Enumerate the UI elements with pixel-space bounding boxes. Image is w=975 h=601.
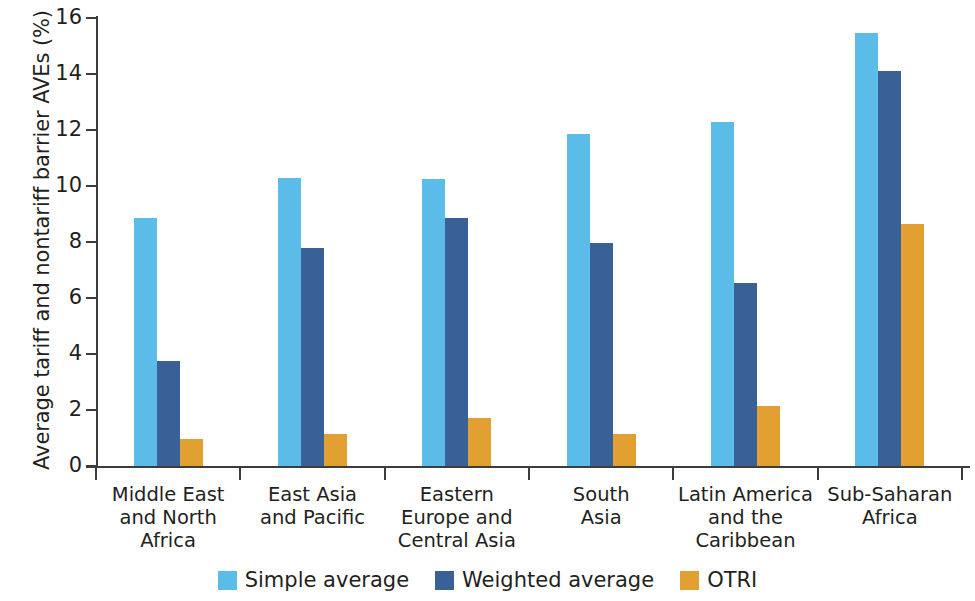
- bar-group: [818, 18, 962, 466]
- bar-weighted: [445, 218, 468, 466]
- y-axis-tick: [86, 17, 96, 19]
- y-axis-tick-label: 2: [38, 399, 82, 420]
- x-axis-category-label: SouthAsia: [519, 484, 683, 530]
- bar-otri: [757, 406, 780, 466]
- legend-swatch-icon: [218, 571, 237, 590]
- x-axis-category-label-line: Eastern: [375, 484, 539, 507]
- bar-weighted: [590, 243, 613, 466]
- x-axis-category-label: East Asiaand Pacific: [230, 484, 394, 530]
- y-axis-tick: [86, 241, 96, 243]
- bar-group: [96, 18, 240, 466]
- x-axis-category-label-line: Middle East: [86, 484, 250, 507]
- legend-label: Weighted average: [462, 568, 654, 592]
- x-axis-category-label: EasternEurope andCentral Asia: [375, 484, 539, 552]
- bar-simple: [567, 134, 590, 466]
- x-axis-category-label-line: and Pacific: [230, 507, 394, 530]
- y-axis-tick-label: 4: [38, 343, 82, 364]
- y-axis-tick-label: 0: [38, 455, 82, 476]
- plot-area: [96, 18, 962, 466]
- y-axis-tick-label: 6: [38, 287, 82, 308]
- x-axis-category-label-line: Sub-Saharan: [808, 484, 972, 507]
- x-axis-tick: [384, 468, 386, 480]
- x-axis-category-label-line: and North: [86, 507, 250, 530]
- y-axis-tick-label: 8: [38, 231, 82, 252]
- bar-group: [673, 18, 817, 466]
- x-axis-category-label: Latin Americaand theCaribbean: [663, 484, 827, 552]
- legend-swatch-icon: [680, 571, 699, 590]
- x-axis-tick: [528, 468, 530, 480]
- y-axis-tick: [86, 129, 96, 131]
- bar-otri: [901, 224, 924, 466]
- y-axis-tick-label: 10: [38, 175, 82, 196]
- x-axis-tick: [817, 468, 819, 480]
- legend-label: Simple average: [245, 568, 409, 592]
- x-axis-tick: [239, 468, 241, 480]
- bar-otri: [324, 434, 347, 466]
- x-axis-tick: [961, 468, 963, 480]
- bar-simple: [278, 178, 301, 466]
- x-axis-category-label-line: Caribbean: [663, 530, 827, 553]
- y-axis-tick: [86, 353, 96, 355]
- bar-otri: [468, 418, 491, 466]
- bar-simple: [855, 33, 878, 466]
- y-axis-tick: [86, 409, 96, 411]
- legend-item-weighted[interactable]: Weighted average: [435, 568, 654, 592]
- bar-simple: [134, 218, 157, 466]
- y-axis-tick-label: 12: [38, 119, 82, 140]
- x-axis-category-label-line: Central Asia: [375, 530, 539, 553]
- y-axis-tick-label: 16: [38, 7, 82, 28]
- y-axis-tick: [86, 73, 96, 75]
- x-axis-category-label-line: and the: [663, 507, 827, 530]
- bar-group: [240, 18, 384, 466]
- x-axis-category-label-line: Europe and: [375, 507, 539, 530]
- x-axis-category-label-line: Africa: [86, 530, 250, 553]
- y-axis-tick: [86, 297, 96, 299]
- bar-weighted: [157, 361, 180, 466]
- bar-simple: [711, 122, 734, 466]
- bar-group: [385, 18, 529, 466]
- bar-otri: [180, 439, 203, 466]
- legend-item-otri[interactable]: OTRI: [680, 568, 757, 592]
- bar-group: [529, 18, 673, 466]
- x-axis-category-label-line: Asia: [519, 507, 683, 530]
- x-axis-category-label: Sub-SaharanAfrica: [808, 484, 972, 530]
- x-axis-category-label-line: Africa: [808, 507, 972, 530]
- y-axis-tick: [86, 185, 96, 187]
- legend-swatch-icon: [435, 571, 454, 590]
- bar-weighted: [878, 71, 901, 466]
- x-axis-category-label-line: Latin America: [663, 484, 827, 507]
- x-axis-tick: [95, 468, 97, 480]
- legend-label: OTRI: [707, 568, 757, 592]
- bar-weighted: [734, 283, 757, 466]
- bar-simple: [422, 179, 445, 466]
- bar-chart: Average tariff and nontariff barrier AVE…: [0, 0, 975, 601]
- y-axis-tick-label: 14: [38, 63, 82, 84]
- x-axis-category-label-line: East Asia: [230, 484, 394, 507]
- x-axis-tick: [672, 468, 674, 480]
- bar-weighted: [301, 248, 324, 466]
- x-axis-category-label: Middle Eastand NorthAfrica: [86, 484, 250, 552]
- chart-legend: Simple averageWeighted averageOTRI: [0, 568, 975, 592]
- x-axis-category-label-line: South: [519, 484, 683, 507]
- legend-item-simple[interactable]: Simple average: [218, 568, 409, 592]
- bar-otri: [613, 434, 636, 466]
